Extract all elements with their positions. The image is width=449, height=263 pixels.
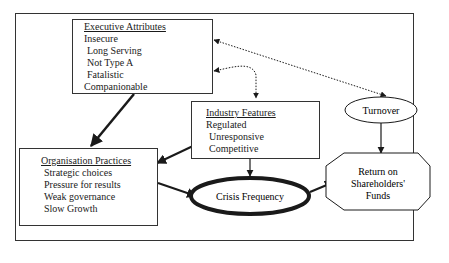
return-label-line2: Shareholders' <box>351 178 405 189</box>
list-item: Unresponsive <box>206 131 319 143</box>
executive-attributes-title: Executive Attributes <box>84 21 212 33</box>
industry-features-box: Industry Features Regulated Unresponsive… <box>191 101 320 159</box>
list-item: Fatalistic <box>84 69 212 81</box>
list-item: Strategic choices <box>41 167 157 179</box>
organisation-practices-title: Organisation Practices <box>41 155 157 167</box>
return-label-line1: Return on <box>358 166 398 177</box>
list-item: Regulated <box>206 119 319 131</box>
dotted-arrow-exec-turnover <box>214 40 386 96</box>
turnover-label: Turnover <box>363 105 401 116</box>
arrow-industry-to-org <box>157 146 193 163</box>
list-item: Slow Growth <box>41 203 157 215</box>
return-label-line3: Funds <box>366 190 391 201</box>
executive-attributes-box: Executive Attributes Insecure Long Servi… <box>72 19 213 94</box>
list-item: Competitive <box>206 143 319 155</box>
list-item: Long Serving <box>84 45 212 57</box>
organisation-practices-box: Organisation Practices Strategic choices… <box>19 148 158 226</box>
list-item: Companionable <box>84 81 212 93</box>
arrow-exec-to-org <box>91 94 134 146</box>
list-item: Pressure for results <box>41 179 157 191</box>
list-item: Not Type A <box>84 57 212 69</box>
list-item: Insecure <box>84 33 212 45</box>
industry-features-title: Industry Features <box>206 107 319 119</box>
dotted-arrow-exec-industry <box>214 66 256 98</box>
crisis-frequency-label: Crisis Frequency <box>216 191 284 202</box>
list-item: Weak governance <box>41 191 157 203</box>
